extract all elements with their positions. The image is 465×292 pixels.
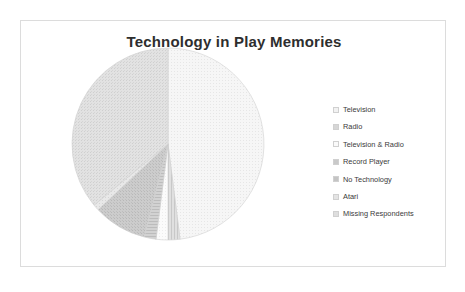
legend-label-no-technology: No Technology	[343, 176, 392, 183]
chart-legend: Television Radio Television & Radio Reco…	[333, 101, 445, 223]
pie-chart-svg	[63, 47, 283, 257]
legend-item-radio: Radio	[333, 118, 445, 135]
legend-label-radio: Radio	[343, 123, 362, 130]
legend-swatch-missing-respondents	[333, 211, 339, 217]
pie-slice	[168, 48, 264, 239]
legend-swatch-television	[333, 107, 339, 113]
legend-item-record-player: Record Player	[333, 153, 445, 170]
legend-label-missing-respondents: Missing Respondents	[343, 210, 414, 217]
legend-swatch-record-player	[333, 159, 339, 165]
legend-item-no-technology: No Technology	[333, 171, 445, 188]
legend-swatch-television-and-radio	[333, 141, 339, 147]
pie-slice-group	[72, 48, 264, 240]
legend-label-record-player: Record Player	[343, 158, 390, 165]
legend-item-atari: Atari	[333, 188, 445, 205]
legend-label-television: Television	[343, 106, 375, 113]
legend-item-television-and-radio: Television & Radio	[333, 136, 445, 153]
legend-swatch-no-technology	[333, 176, 339, 182]
legend-item-television: Television	[333, 101, 445, 118]
chart-frame: Technology in Play Memories	[20, 20, 446, 267]
legend-swatch-atari	[333, 194, 339, 200]
legend-label-atari: Atari	[343, 193, 358, 200]
legend-item-missing-respondents: Missing Respondents	[333, 205, 445, 222]
legend-swatch-radio	[333, 124, 339, 130]
legend-label-television-and-radio: Television & Radio	[343, 141, 404, 148]
pie-chart-plot-area	[63, 47, 283, 257]
